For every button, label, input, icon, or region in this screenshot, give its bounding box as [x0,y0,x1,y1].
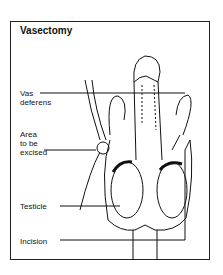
anatomy-illustration [0,0,223,275]
